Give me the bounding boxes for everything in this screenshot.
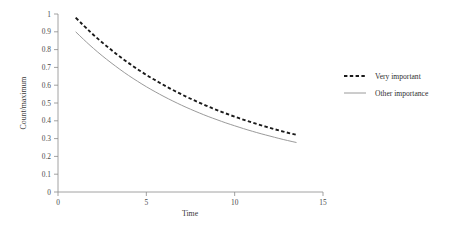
y-axis-tick-labels: 00.10.20.30.40.50.60.70.80.91	[42, 10, 52, 197]
data-series-group	[76, 18, 297, 143]
y-tick-label: 0	[47, 188, 51, 197]
y-axis-title: Count/maximum	[19, 77, 28, 130]
x-tick-label: 0	[56, 198, 60, 207]
y-tick-label: 0.6	[42, 81, 52, 90]
x-tick-label: 5	[144, 198, 148, 207]
x-tick-label: 15	[319, 198, 327, 207]
x-axis-ticks	[58, 192, 323, 196]
y-tick-label: 0.3	[42, 134, 52, 143]
chart-svg: 00.10.20.30.40.50.60.70.80.91 051015 Tim…	[0, 0, 462, 236]
y-tick-label: 0.1	[42, 170, 52, 179]
y-tick-label: 0.8	[42, 45, 52, 54]
legend-label-very-important: Very important	[375, 72, 422, 81]
series-line-very-important	[76, 18, 297, 135]
chart-figure: 00.10.20.30.40.50.60.70.80.91 051015 Tim…	[0, 0, 462, 236]
y-tick-label: 0.7	[42, 63, 52, 72]
y-tick-label: 1	[47, 10, 51, 19]
y-tick-label: 0.4	[42, 116, 52, 125]
x-tick-label: 10	[231, 198, 239, 207]
y-tick-label: 0.2	[42, 152, 52, 161]
x-axis-tick-labels: 051015	[56, 198, 327, 207]
legend-label-other-importance: Other importance	[375, 89, 429, 98]
y-tick-label: 0.9	[42, 27, 52, 36]
x-axis-title: Time	[182, 209, 199, 218]
y-axis-ticks	[54, 14, 58, 192]
y-tick-label: 0.5	[42, 99, 52, 108]
series-line-other-importance	[76, 32, 297, 143]
chart-legend: Very importantOther importance	[344, 72, 429, 98]
axes-group	[58, 14, 323, 192]
